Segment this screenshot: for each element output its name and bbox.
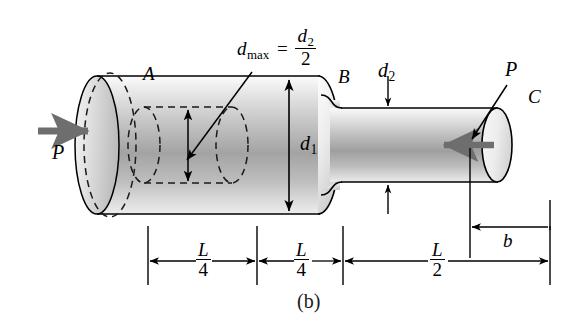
dmax-fraction: d2 2 <box>295 26 315 68</box>
dmax-equation-label: dmax = d2 2 <box>237 26 316 68</box>
label-dimension-b: b <box>503 231 513 250</box>
dmax-lhs-symbol: d <box>237 38 247 59</box>
segment-1-fraction: L 4 <box>196 240 211 280</box>
segment-1-denominator: 4 <box>196 260 211 279</box>
dmax-fraction-denominator: 2 <box>295 49 315 68</box>
figure-container: dmax = d2 2 A B C P P d1 d2 b L 4 L 4 <box>0 0 569 327</box>
label-diameter-d1: d1 <box>300 133 317 156</box>
label-point-a: A <box>143 64 155 83</box>
segment-1-numerator: L <box>196 240 211 260</box>
segment-2-fraction: L 4 <box>294 240 309 280</box>
segment-3-denominator: 2 <box>430 260 445 279</box>
segment-2-numerator: L <box>294 240 309 260</box>
label-dimension-segment-3: L 2 <box>430 240 445 280</box>
figure-caption: (b) <box>297 290 320 313</box>
label-load-p-left: P <box>52 142 64 162</box>
label-point-b: B <box>338 67 350 86</box>
dmax-lhs-subscript: max <box>247 47 270 62</box>
label-point-c: C <box>528 87 541 106</box>
label-dimension-segment-2: L 4 <box>294 240 309 280</box>
label-dimension-segment-1: L 4 <box>196 240 211 280</box>
segment-2-denominator: 4 <box>294 260 309 279</box>
label-load-p-right: P <box>505 59 517 79</box>
label-diameter-d2: d2 <box>378 60 395 83</box>
dmax-fraction-numerator: d2 <box>295 26 315 49</box>
dmax-equals-sign: = <box>274 38 291 59</box>
segment-3-numerator: L <box>430 240 445 260</box>
segment-3-fraction: L 2 <box>430 240 445 280</box>
